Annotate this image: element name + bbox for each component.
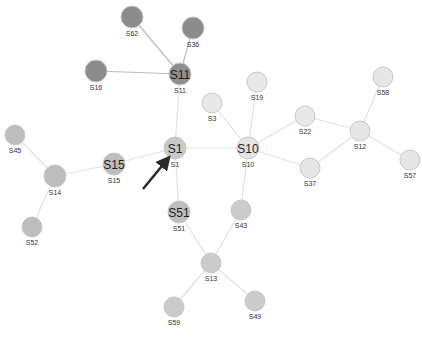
node-s19[interactable]: S19 (247, 72, 267, 101)
node-circle[interactable] (121, 6, 143, 28)
node-inner-label: S10 (237, 142, 259, 156)
node-label: S37 (304, 180, 317, 187)
node-s10[interactable]: S10S10 (237, 137, 259, 168)
node-circle[interactable] (400, 150, 420, 170)
node-circle[interactable] (5, 125, 25, 145)
node-circle[interactable] (85, 60, 107, 82)
node-label: S36 (187, 41, 200, 48)
node-label: S19 (251, 94, 264, 101)
node-s15[interactable]: S15S15 (103, 153, 125, 184)
node-label: S10 (242, 161, 255, 168)
node-s16[interactable]: S16 (85, 60, 107, 91)
nodes-layer: S62S36S11S11S16S1S1S10S10S3S19S22S12S58S… (5, 6, 420, 326)
pointer-arrow-icon (143, 161, 166, 189)
node-circle[interactable] (295, 106, 315, 126)
node-label: S11 (174, 87, 186, 94)
node-inner-label: S15 (103, 158, 125, 172)
node-s43[interactable]: S43 (231, 200, 251, 229)
node-circle[interactable] (300, 158, 320, 178)
node-label: S49 (249, 313, 262, 320)
node-s49[interactable]: S49 (245, 291, 265, 320)
node-s13[interactable]: S13 (201, 253, 221, 282)
node-circle[interactable] (201, 253, 221, 273)
node-s37[interactable]: S37 (300, 158, 320, 187)
node-s12[interactable]: S12 (350, 121, 370, 150)
node-label: S16 (90, 84, 103, 91)
node-label: S14 (49, 189, 62, 196)
node-inner-label: S51 (168, 206, 190, 220)
node-label: S13 (205, 275, 218, 282)
node-inner-label: S11 (170, 68, 191, 82)
node-circle[interactable] (350, 121, 370, 141)
node-s45[interactable]: S45 (5, 125, 25, 154)
node-label: S22 (299, 128, 312, 135)
node-label: S62 (126, 30, 139, 37)
node-s62[interactable]: S62 (121, 6, 143, 37)
node-s3[interactable]: S3 (202, 93, 222, 122)
node-circle[interactable] (202, 93, 222, 113)
node-label: S15 (108, 177, 121, 184)
node-label: S57 (404, 172, 417, 179)
node-circle[interactable] (22, 217, 42, 237)
edge-s16-s11 (96, 71, 180, 74)
node-circle[interactable] (373, 67, 393, 87)
node-label: S45 (9, 147, 22, 154)
node-s52[interactable]: S52 (22, 217, 42, 246)
node-circle[interactable] (247, 72, 267, 92)
node-label: S58 (377, 89, 390, 96)
node-label: S52 (26, 239, 39, 246)
node-s59[interactable]: S59 (164, 297, 184, 326)
node-s51[interactable]: S51S51 (168, 201, 190, 232)
node-s1[interactable]: S1S1 (164, 137, 186, 168)
node-label: S12 (354, 143, 367, 150)
annotation-layer (143, 161, 166, 189)
node-inner-label: S1 (168, 142, 183, 156)
node-label: S1 (171, 161, 180, 168)
node-s57[interactable]: S57 (400, 150, 420, 179)
node-s14[interactable]: S14 (44, 165, 66, 196)
node-s22[interactable]: S22 (295, 106, 315, 135)
node-label: S3 (208, 115, 217, 122)
node-label: S43 (235, 222, 248, 229)
node-s36[interactable]: S36 (182, 17, 204, 48)
network-graph: S62S36S11S11S16S1S1S10S10S3S19S22S12S58S… (0, 0, 422, 338)
node-circle[interactable] (245, 291, 265, 311)
node-circle[interactable] (182, 17, 204, 39)
node-s58[interactable]: S58 (373, 67, 393, 96)
node-label: S51 (173, 225, 186, 232)
node-circle[interactable] (44, 165, 66, 187)
node-label: S59 (168, 319, 181, 326)
node-s11[interactable]: S11S11 (169, 63, 191, 94)
node-circle[interactable] (231, 200, 251, 220)
node-circle[interactable] (164, 297, 184, 317)
